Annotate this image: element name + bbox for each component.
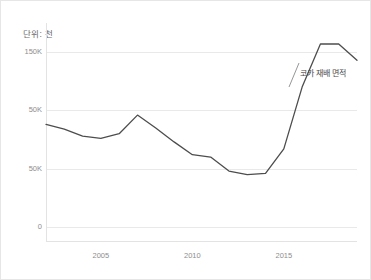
series-label-coca: 코카 재배 면적 [300,67,346,78]
plot-area [1,1,371,280]
leader-line [289,63,299,87]
gridlines [46,53,357,228]
x-tick-label: 2010 [184,251,201,260]
axis-lines [46,23,357,242]
x-tick-label: 2005 [93,251,110,260]
y-tick-label: 50K [29,105,42,114]
series-line-1 [46,44,357,175]
series-lines [46,44,357,175]
y-tick-label: 150K [24,47,42,56]
x-tick-label: 2015 [275,251,292,260]
y-tick-label: 50K [29,164,42,173]
chart-figure: 단위: 천 150K50K50K0 200520102015 코카 재배 면적 [0,0,371,280]
y-tick-label: 0 [38,222,42,231]
annotation-leader-line [289,63,299,87]
